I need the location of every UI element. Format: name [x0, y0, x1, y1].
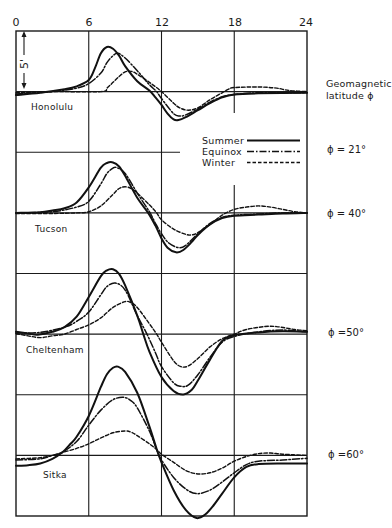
- x-tick-label: 6: [86, 16, 93, 29]
- declination-variation-chart: 0 6 12 18 24 5' Honolulu Tucson Cheltenh…: [0, 0, 392, 528]
- scale-bar-label: 5': [18, 59, 31, 69]
- legend-label-winter: Winter: [202, 157, 235, 168]
- scale-bar-arrow-down-icon: [22, 83, 27, 89]
- station-label-honolulu: Honolulu: [31, 102, 73, 112]
- station-label-tucson: Tucson: [34, 224, 67, 234]
- latitude-heading-line2: latitude ϕ: [326, 90, 374, 101]
- latitude-heading-line1: Geomagnetic: [326, 78, 392, 89]
- x-tick-label: 12: [155, 16, 169, 29]
- legend-label-summer: Summer: [202, 135, 244, 146]
- latitude-label-cheltenham: ϕ =50°: [328, 327, 364, 338]
- x-axis-ticks: 0 6 12 18 24: [13, 16, 314, 29]
- x-tick-label: 0: [13, 16, 20, 29]
- latitude-label-sitka: ϕ =60°: [328, 449, 364, 460]
- station-label-cheltenham: Cheltenham: [26, 345, 84, 355]
- legend: Summer Equinox Winter: [202, 135, 300, 168]
- latitude-label-honolulu: ϕ = 21°: [327, 144, 366, 155]
- scale-bar-arrow-up-icon: [22, 31, 27, 37]
- scale-bar: 5': [18, 31, 31, 89]
- legend-label-equinox: Equinox: [202, 146, 242, 157]
- latitude-labels: Geomagnetic latitude ϕ ϕ = 21° ϕ = 40° ϕ…: [326, 78, 392, 460]
- x-tick-label: 18: [228, 16, 242, 29]
- x-tick-label: 24: [299, 16, 313, 29]
- station-label-sitka: Sitka: [43, 470, 67, 480]
- latitude-label-tucson: ϕ = 40°: [327, 208, 366, 219]
